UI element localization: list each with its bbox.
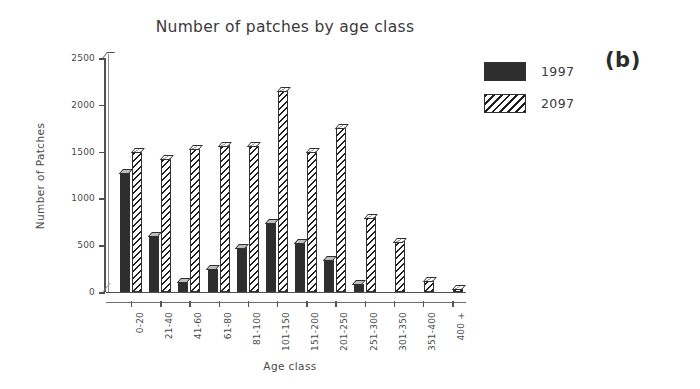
y-tick-2500 [99, 58, 105, 60]
x-tick-301-350 [394, 301, 395, 307]
x-tick-0-20 [131, 301, 132, 307]
bar-top-face [206, 265, 220, 270]
bar-1997-0-20 [120, 172, 130, 292]
bar-2097-400 + [453, 288, 463, 292]
bar-2097-21-40 [161, 158, 171, 292]
bar-top-face [189, 145, 203, 150]
bar-top-face [423, 277, 437, 282]
x-tick-label-61-80: 61-80 [223, 312, 233, 339]
bar-top-face [364, 214, 378, 219]
bar-top-face [119, 169, 133, 174]
bar-top-face [148, 232, 162, 237]
x-tick-label-41-60: 41-60 [193, 312, 203, 339]
bar-top-face [265, 219, 279, 224]
plot-area: 050010001500200025000-2021-4041-6061-808… [104, 58, 464, 292]
x-tick-400 + [452, 301, 453, 307]
bar-top-face [452, 285, 466, 290]
bar-top-face [218, 142, 232, 147]
bar-2097-251-300 [366, 217, 376, 292]
bar-2097-301-350 [395, 241, 405, 292]
x-tick-351-400 [423, 301, 424, 307]
x-tick-21-40 [160, 301, 161, 307]
bar-1997-101-150 [266, 223, 276, 292]
bar-top-face [294, 239, 308, 244]
x-tick-101-150 [277, 301, 278, 307]
legend-swatch-1997 [484, 62, 526, 81]
bar-1997-251-300 [354, 284, 364, 292]
y-tick-label-500: 500 [77, 240, 95, 250]
bar-2097-201-250 [336, 127, 346, 292]
bar-top-face [323, 256, 337, 261]
bar-1997-151-200 [295, 242, 305, 292]
x-tick-label-21-40: 21-40 [164, 312, 174, 339]
x-tick-41-60 [189, 301, 190, 307]
x-tick-label-301-350: 301-350 [398, 312, 408, 351]
x-tick-251-300 [365, 301, 366, 307]
x-tick-label-81-100: 81-100 [252, 312, 262, 345]
legend-label-2097: 2097 [541, 96, 574, 111]
bar-top-face [277, 87, 291, 92]
legend-label-1997: 1997 [541, 64, 574, 79]
x-tick-81-100 [248, 301, 249, 307]
bar-top-face [335, 124, 349, 129]
bar-1997-81-100 [237, 247, 247, 292]
bar-2097-151-200 [307, 152, 317, 292]
bar-1997-41-60 [178, 282, 188, 292]
x-tick-201-250 [335, 301, 336, 307]
bar-top-face [160, 155, 174, 160]
y-axis-line-3d [108, 54, 109, 292]
bar-2097-0-20 [132, 152, 142, 292]
y-tick-label-0: 0 [89, 287, 95, 297]
bar-top-face [247, 142, 261, 147]
y-tick-label-2500: 2500 [71, 53, 95, 63]
y-tick-2000 [99, 105, 105, 107]
bar-top-face [306, 148, 320, 153]
bar-1997-61-80 [208, 269, 218, 292]
x-tick-61-80 [219, 301, 220, 307]
y-tick-label-2000: 2000 [71, 100, 95, 110]
y-axis-line [104, 58, 106, 292]
y-tick-label-1500: 1500 [71, 147, 95, 157]
bar-2097-81-100 [249, 146, 259, 292]
bar-top-face [393, 238, 407, 243]
x-tick-151-200 [306, 301, 307, 307]
y-tick-500 [99, 245, 105, 247]
bar-top-face [177, 278, 191, 283]
x-tick-label-101-150: 101-150 [281, 312, 291, 351]
x-tick-label-151-200: 151-200 [310, 312, 320, 351]
panel-label: (b) [605, 48, 641, 72]
x-tick-label-201-250: 201-250 [339, 312, 349, 351]
bar-1997-21-40 [149, 236, 159, 292]
bar-1997-201-250 [324, 259, 334, 292]
bar-2097-61-80 [220, 145, 230, 292]
bar-2097-41-60 [190, 149, 200, 292]
bar-top-face [131, 148, 145, 153]
legend-swatch-2097 [484, 94, 526, 113]
x-tick-label-251-300: 251-300 [369, 312, 379, 351]
bar-2097-101-150 [278, 91, 288, 292]
x-tick-label-0-20: 0-20 [135, 312, 145, 333]
y-tick-1500 [99, 152, 105, 154]
x-tick-label-400 +: 400 + [456, 312, 466, 341]
bar-2097-351-400 [424, 281, 434, 292]
y-axis-title: Number of Patches [34, 106, 46, 246]
y-tick-label-1000: 1000 [71, 193, 95, 203]
y-tick-0 [99, 292, 105, 294]
bar-top-face [235, 244, 249, 249]
bar-top-face [352, 280, 366, 285]
figure-panel: Number of patches by age class (b) Numbe… [0, 0, 700, 389]
y-tick-1000 [99, 198, 105, 200]
x-tick-label-351-400: 351-400 [427, 312, 437, 351]
chart-title: Number of patches by age class [95, 18, 475, 36]
x-axis-title: Age class [150, 360, 430, 372]
